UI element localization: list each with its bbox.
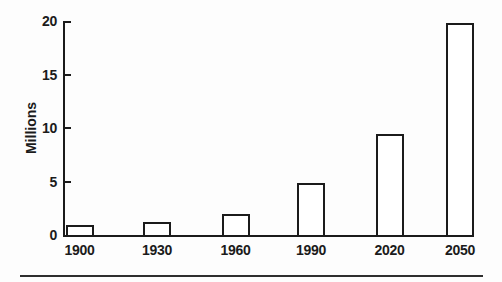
bar-1960 [222,214,250,235]
x-tick-label-1900: 1900 [52,242,108,258]
bar-1990 [297,183,325,235]
x-tick-label-1930: 1930 [129,242,185,258]
x-tick-label-2020: 2020 [362,242,418,258]
x-tick-label-1990: 1990 [283,242,339,258]
y-tick-label-0: 0 [24,227,57,243]
y-tick-mark-10 [65,127,71,129]
y-tick-label-20: 20 [24,13,57,29]
bar-1930 [143,222,171,235]
figure: Millions 190019301960199020202050 051015… [0,0,502,282]
y-tick-label-15: 15 [24,67,57,83]
bar-2020 [376,134,404,235]
plot-area: 190019301960199020202050 [63,21,474,237]
y-tick-mark-15 [65,74,71,76]
bottom-rule [20,275,483,277]
x-tick-label-2050: 2050 [432,242,488,258]
y-tick-mark-5 [65,181,71,183]
y-tick-label-5: 5 [24,174,57,190]
x-tick-label-1960: 1960 [208,242,264,258]
bar-1900 [66,225,94,235]
y-tick-mark-20 [65,21,71,23]
y-tick-label-10: 10 [24,120,57,136]
bar-2050 [446,23,474,235]
